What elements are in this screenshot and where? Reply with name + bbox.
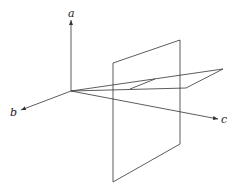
wedge-upper-edge — [71, 69, 223, 91]
diagram-canvas: a b c — [0, 0, 237, 193]
axis-b — [21, 91, 71, 110]
axis-c — [71, 91, 218, 119]
axis-c-label: c — [221, 113, 227, 126]
axis-b-label: b — [10, 106, 17, 119]
vertical-plane — [113, 40, 180, 182]
axis-a-label: a — [68, 7, 75, 20]
